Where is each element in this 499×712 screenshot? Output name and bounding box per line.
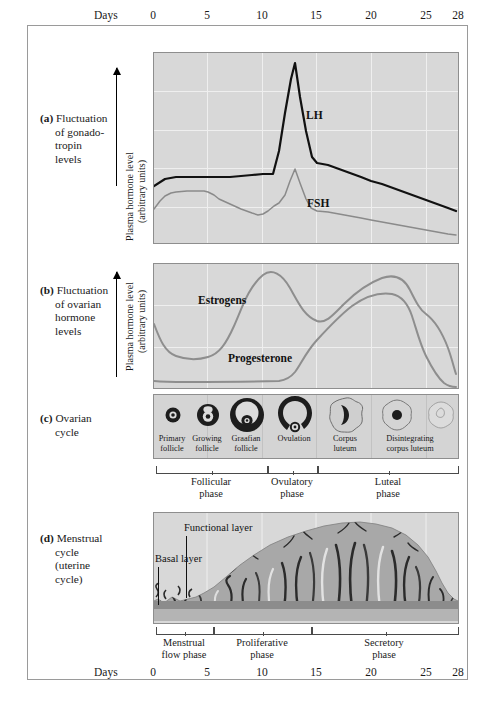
days-axis-top-label: Days: [94, 9, 118, 21]
tick-top-0: 0: [150, 9, 156, 21]
panel-a-tag: (a): [40, 112, 53, 124]
panel-d-title-0: Menstrual: [57, 532, 103, 544]
corpus-luteum-icon: [327, 396, 365, 434]
bracket-secretory-phase: [312, 627, 459, 635]
bracket-proliferative-phase: [214, 627, 312, 635]
panel-b-curves: [154, 264, 458, 388]
graafian-follicle-icon: [227, 395, 267, 435]
tick-bot-5: 5: [204, 666, 210, 678]
phase-label-luteal: Lutealphase: [338, 476, 438, 499]
panel-c-tag: (c): [40, 412, 53, 424]
phase-label-proliferative: Proliferativephase: [212, 637, 312, 660]
panel-d-caption: (d) Menstrual cycle (uterine cycle): [40, 532, 150, 586]
tick-top-25: 25: [420, 9, 432, 21]
panel-a-title-2: tropin: [40, 139, 150, 153]
panel-c-title-0: Ovarian: [55, 412, 91, 424]
fsh-label: FSH: [307, 197, 329, 209]
tick-top-15: 15: [310, 9, 322, 21]
estrogens-label: Estrogens: [198, 294, 246, 306]
tick-top-5: 5: [204, 9, 210, 21]
panel-b-tag: (b): [40, 284, 54, 296]
tick-top-20: 20: [365, 9, 377, 21]
panel-a-ylabel-line2: (arbitrary units): [136, 160, 148, 223]
bracket-ovulatory-phase: [268, 466, 318, 474]
tick-bot-20: 20: [365, 666, 377, 678]
bracket-luteal-phase: [318, 466, 459, 474]
disintegrating-corpus-luteum-icon: [380, 398, 414, 432]
growing-follicle-icon: [194, 401, 222, 429]
panel-a-title-0: Fluctuation: [56, 112, 107, 124]
estrogens-curve: [154, 272, 456, 374]
lh-curve: [154, 63, 456, 211]
stage-label-disintegrating-corpus-luteum: Disintegratingcorpus luteum: [364, 434, 456, 453]
panel-a-y-arrow: [116, 68, 117, 186]
progesterone-curve: [154, 294, 456, 388]
basal-layer-label: Basal layer: [155, 553, 202, 564]
panel-b-ylabel-line2: (arbitrary units): [136, 290, 148, 353]
panel-c-caption: (c) Ovarian cycle: [40, 412, 150, 439]
ovulation-icon: [275, 393, 315, 435]
tick-bot-25: 25: [420, 666, 432, 678]
panel-b-y-arrow: [116, 272, 117, 377]
tick-bot-28: 28: [452, 666, 464, 678]
panel-a-curves: [154, 53, 458, 243]
functional-layer-label: Functional layer: [184, 522, 253, 533]
tick-bot-0: 0: [150, 666, 156, 678]
myometrium-band: [154, 609, 458, 621]
tick-bot-15: 15: [310, 666, 322, 678]
corpus-albicans-icon: [426, 400, 456, 430]
panel-a-plot: LH FSH: [153, 52, 459, 244]
phase-label-secretory: Secretoryphase: [334, 637, 434, 660]
tick-top-10: 10: [256, 9, 268, 21]
days-axis-bottom: Days 0 5 10 15 20 25 28: [0, 666, 499, 684]
bracket-menstrual-flow-phase: [156, 627, 214, 635]
fsh-curve: [154, 169, 456, 235]
primary-follicle-icon: [163, 405, 183, 425]
panel-a-ylabel-line1: Plasma hormone level: [124, 152, 136, 241]
phase-label-ovulatory: Ovulatoryphase: [242, 476, 342, 499]
progesterone-label: Progesterone: [228, 352, 292, 364]
panel-d-title-2: (uterine: [40, 559, 150, 573]
panel-c-title-1: cycle: [40, 426, 150, 440]
panel-d-title-1: cycle: [40, 546, 150, 560]
panel-b-ylabel-line1: Plasma hormone level: [124, 282, 136, 371]
panel-d-tag: (d): [40, 532, 54, 544]
panel-b-title-0: Fluctuation: [57, 284, 108, 296]
days-axis-bottom-label: Days: [94, 666, 118, 678]
tick-bot-10: 10: [256, 666, 268, 678]
tick-top-28: 28: [452, 9, 464, 21]
bracket-follicular-phase: [156, 466, 268, 474]
panel-d-title-3: cycle): [40, 573, 150, 587]
basal-layer-leader: [158, 567, 159, 605]
lh-label: LH: [306, 109, 323, 121]
panel-b-plot: Estrogens Progesterone: [153, 263, 459, 389]
panel-a-title-1: of gonado-: [40, 126, 150, 140]
days-axis-top: Days 0 5 10 15 20 25 28: [0, 8, 499, 28]
functional-layer-leader: [186, 536, 187, 598]
